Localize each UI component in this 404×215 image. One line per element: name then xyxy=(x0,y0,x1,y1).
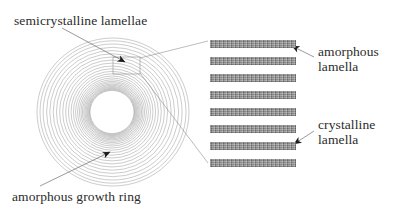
label-amorphous-lamella-line2: lamella xyxy=(318,59,379,74)
growth-ring xyxy=(47,47,179,176)
lamella-bar xyxy=(210,159,296,167)
diagram-canvas xyxy=(0,0,404,215)
growth-ring xyxy=(88,88,136,135)
leader-line-crystalline-lamella xyxy=(294,131,314,144)
growth-ring xyxy=(89,89,136,135)
lamella-bar xyxy=(210,125,296,133)
growth-ring xyxy=(71,71,153,152)
growth-ring xyxy=(86,86,138,137)
lamella-bar xyxy=(210,142,296,150)
growth-ring xyxy=(87,87,137,136)
growth-ring xyxy=(90,90,134,133)
label-crystalline-lamella: crystalline lamella xyxy=(318,117,375,147)
label-crystalline-lamella-line1: crystalline xyxy=(318,117,375,132)
label-amorphous-lamella-line1: amorphous xyxy=(318,44,379,59)
growth-ring xyxy=(85,85,139,138)
label-amorphous-growth-ring: amorphous growth ring xyxy=(12,189,141,204)
label-crystalline-lamella-line2: lamella xyxy=(318,132,375,147)
lamella-bar xyxy=(210,74,296,82)
growth-ring xyxy=(89,90,134,134)
growth-ring xyxy=(84,84,141,140)
lamella-bar xyxy=(210,40,296,48)
growth-ring xyxy=(68,69,155,155)
lamellae-stack xyxy=(210,38,296,166)
lamella-bar xyxy=(210,91,296,99)
growth-ring xyxy=(82,83,141,141)
growth-ring xyxy=(76,76,149,148)
label-semicrystalline-lamellae: semicrystalline lamellae xyxy=(14,13,147,28)
label-amorphous-lamella: amorphous lamella xyxy=(318,44,379,74)
growth-ring xyxy=(60,60,165,164)
callout-connector-upper xyxy=(140,41,208,58)
lamella-bar xyxy=(210,57,296,65)
lamella-bar xyxy=(210,108,296,116)
growth-ring xyxy=(56,57,167,167)
